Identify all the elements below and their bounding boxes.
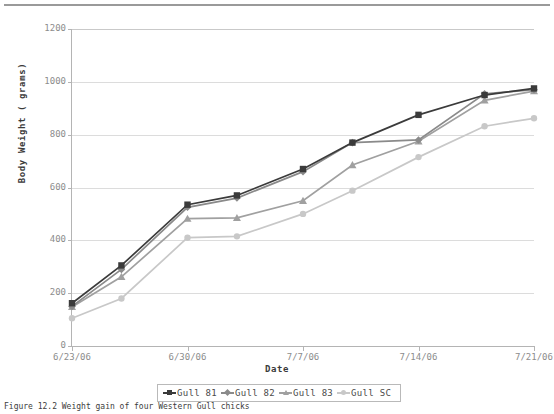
data-point (184, 201, 190, 207)
x-tick-label: 7/21/06 (494, 352, 554, 362)
legend-item-gull-83: Gull 83 (279, 388, 333, 398)
data-point (481, 123, 487, 129)
data-point (118, 295, 124, 301)
legend-line-swatch (279, 392, 292, 394)
legend-item-gull-82: Gull 82 (221, 388, 275, 398)
x-tick-mark (419, 346, 420, 351)
data-point (349, 139, 355, 145)
data-point (184, 234, 190, 240)
legend-label: Gull 83 (293, 388, 333, 398)
legend-line-swatch (221, 392, 234, 394)
legend-circle-icon (341, 390, 346, 395)
data-point (69, 300, 75, 306)
data-point (300, 211, 306, 217)
x-tick-mark (72, 346, 73, 351)
legend-label: Gull 82 (235, 388, 275, 398)
series-gull-sc (69, 115, 537, 321)
x-tick-mark (188, 346, 189, 351)
legend-square-icon (167, 390, 172, 395)
chart-canvas: Body Weight ( grams) 0200400600800100012… (0, 8, 554, 380)
data-point (234, 192, 240, 198)
data-point (349, 187, 355, 193)
legend-label: Gull 81 (177, 388, 217, 398)
chart-legend: Gull 81Gull 82Gull 83Gull SC (157, 384, 401, 402)
data-point (531, 115, 537, 121)
series-lines (0, 8, 554, 380)
figure-page: Body Weight ( grams) 0200400600800100012… (0, 0, 554, 414)
x-tick-mark (303, 346, 304, 351)
series-gull-81 (69, 85, 537, 306)
x-axis-title: Date (0, 364, 554, 374)
data-point (481, 92, 487, 98)
legend-item-gull-sc: Gull SC (337, 388, 391, 398)
legend-item-gull-81: Gull 81 (163, 388, 217, 398)
data-point (234, 233, 240, 239)
legend-triangle-icon (283, 390, 289, 395)
legend-line-swatch (163, 392, 176, 394)
data-point (531, 85, 537, 91)
x-tick-mark (534, 346, 535, 351)
top-divider (4, 4, 550, 6)
series-gull-83 (68, 87, 538, 310)
data-point (69, 315, 75, 321)
x-tick-label: 7/7/06 (263, 352, 343, 362)
data-point (415, 112, 421, 118)
figure-caption: Figure 12.2 Weight gain of four Western … (4, 402, 250, 411)
x-tick-label: 7/14/06 (379, 352, 459, 362)
legend-line-swatch (337, 392, 350, 394)
data-point (118, 262, 124, 268)
legend-diamond-icon (224, 389, 231, 396)
data-point (300, 166, 306, 172)
x-tick-label: 6/23/06 (32, 352, 112, 362)
data-point (415, 154, 421, 160)
x-tick-label: 6/30/06 (148, 352, 228, 362)
legend-label: Gull SC (351, 388, 391, 398)
